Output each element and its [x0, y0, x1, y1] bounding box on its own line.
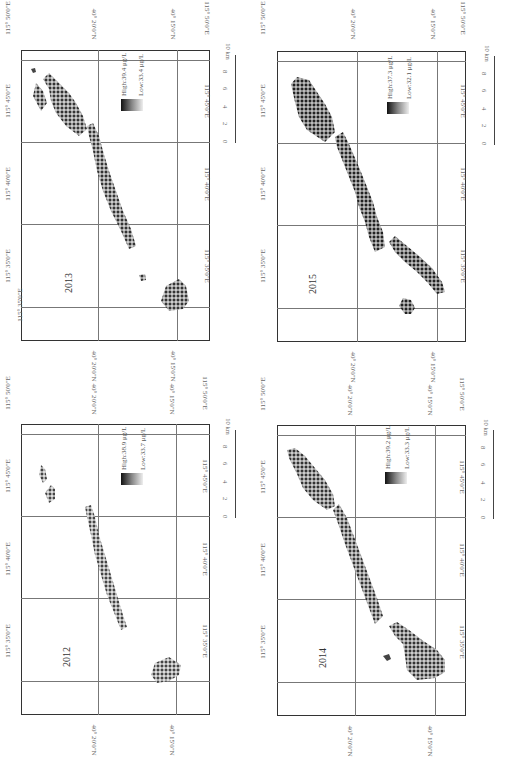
lat-label-top-15: 40° 15'0"N: [168, 383, 176, 414]
legend-low: Low:33.4 μg/L: [137, 54, 145, 96]
reservoir-concentration-map: [21, 50, 210, 341]
legend-high: High:39.4 μg/L: [120, 53, 128, 96]
lon-label-top-40: 115° 40'0"E: [4, 167, 12, 201]
lon-label-right-45: 115° 45'0"E: [459, 84, 467, 118]
lat-label-bottom-15: 40° 15'0"N: [426, 725, 434, 756]
scale-tick-8: 8: [222, 445, 229, 448]
scale-tick-6: 6: [222, 462, 229, 465]
scale-tick-0: 0: [481, 142, 488, 145]
scale-tick-10: 10 km: [225, 418, 232, 434]
lat-label-bottom-20: 40° 20'0"N: [90, 350, 98, 381]
lat-label-bottom-15: 40° 15'0"N: [168, 724, 176, 755]
lon-label-right-35: 115° 35'0"E: [458, 625, 466, 659]
legend-high: High:37.3 μg/L: [386, 56, 394, 99]
lat-label-bottom-15: 40° 15'0"N: [169, 350, 177, 381]
year-label: 2013: [63, 273, 74, 293]
lon-label-right-35: 115° 35'0"E: [203, 249, 211, 283]
lat-label-top-20: 40° 20'0"N: [90, 8, 98, 39]
legend-high: High:38.9 μg/L: [120, 427, 128, 470]
lon-label-top-45: 115° 45'0"E: [4, 459, 12, 493]
scale-tick-0: 0: [480, 516, 487, 519]
lon-label-right-50: 115° 50'0"E: [458, 377, 466, 411]
legend-high: High:39.2 μg/L: [384, 426, 392, 469]
scale-tick-4: 4: [222, 480, 229, 483]
lat-label-top-20: 40° 20'0"N: [346, 384, 354, 415]
lon-label-top-35: 115° 35'0"E: [259, 249, 267, 283]
legend-color-ramp: [121, 99, 143, 111]
lat-label-bottom-20: 40° 20'0"N: [346, 725, 354, 756]
legend-color-ramp: [387, 102, 409, 114]
lon-label-right-40: 115° 40'0"E: [459, 167, 467, 201]
lon-label-top-45: 115° 45'0"E: [259, 460, 267, 494]
scale-tick-2: 2: [222, 122, 229, 125]
lon-label-right-50: 115° 50'0"E: [203, 1, 211, 35]
lat-label-bottom-20: 40° 20'0"N: [349, 351, 357, 382]
scale-tick-10: 10 km: [484, 45, 491, 61]
scale-bar: [235, 55, 236, 143]
legend-color-ramp: [385, 472, 407, 484]
lat-label-bottom-20: 40° 20'0"N: [90, 724, 98, 755]
lat-label-top-15: 40° 15'0"N: [429, 8, 437, 39]
legend-low: Low:33.7 μg/L: [139, 428, 147, 470]
lon-label-right-40: 115° 40'0"E: [203, 167, 211, 201]
scale-tick-2: 2: [480, 498, 487, 501]
lon-label-top-50: 115° 50'0"E: [4, 1, 12, 35]
year-label: 2014: [317, 648, 328, 668]
legend-color-ramp: [121, 473, 143, 485]
scale-tick-4: 4: [480, 481, 487, 484]
lon-label-top-35: 115° 35'0"E: [4, 249, 12, 283]
lon-label-top-40: 115° 40'0"E: [259, 543, 267, 577]
lon-label-top-50: 115° 50'0"E: [259, 377, 267, 411]
scale-tick-6: 6: [480, 463, 487, 466]
lat-label-top-20: 40° 20'0"N: [90, 383, 98, 414]
scale-tick-6: 6: [222, 87, 229, 90]
reservoir-concentration-map: [277, 425, 466, 716]
scale-bar: [235, 430, 236, 518]
year-label: 2015: [307, 274, 318, 294]
scale-tick-6: 6: [481, 89, 488, 92]
lon-label-right-35: 115° 35'0"E: [459, 249, 467, 283]
scale-tick-4: 4: [222, 105, 229, 108]
reservoir-concentration-map: [277, 51, 466, 342]
scale-tick-8: 8: [222, 70, 229, 73]
scale-tick-0: 0: [222, 515, 229, 518]
lon-label-right-40: 115° 40'0"E: [201, 542, 209, 576]
lon-label-35-top: 115° 35'0"E: [16, 288, 24, 322]
lon-label-top-40: 115° 40'0"E: [259, 167, 267, 201]
scale-tick-2: 2: [481, 124, 488, 127]
lon-label-top-50: 115° 50'0"E: [4, 376, 12, 410]
lon-label-top-35: 115° 35'0"E: [4, 624, 12, 658]
lat-label-bottom-15: 40° 15'0"N: [429, 351, 437, 382]
lon-label-right-35: 115° 35'0"E: [201, 624, 209, 658]
lon-label-top-40: 115° 40'0"E: [4, 542, 12, 576]
scale-bar: [494, 56, 495, 145]
scale-tick-2: 2: [222, 497, 229, 500]
lon-label-right-45: 115° 45'0"E: [203, 84, 211, 118]
scale-tick-8: 8: [480, 446, 487, 449]
lat-label-top-15: 40° 15'0"N: [426, 384, 434, 415]
scale-tick-8: 8: [481, 72, 488, 75]
lon-label-right-45: 115° 45'0"E: [458, 460, 466, 494]
scale-tick-4: 4: [481, 107, 488, 110]
lon-label-top-35: 115° 35'0"E: [259, 625, 267, 659]
reservoir-concentration-map: [21, 424, 210, 715]
lon-label-top-45: 115° 45'0"E: [259, 84, 267, 118]
lat-label-top-20: 40° 20'0"N: [349, 8, 357, 39]
lon-label-right-50: 115° 50'0"E: [201, 376, 209, 410]
lon-label-right-40: 115° 40'0"E: [458, 543, 466, 577]
scale-tick-0: 0: [222, 140, 229, 143]
lon-label-right-45: 115° 45'0"E: [201, 459, 209, 493]
lon-label-top-50: 115° 50'0"E: [259, 1, 267, 35]
legend-low: Low:32.1 μg/L: [405, 57, 413, 99]
scale-tick-10: 10 km: [225, 43, 232, 59]
year-label: 2012: [61, 647, 72, 667]
lon-label-top-45: 115° 45'0"E: [4, 84, 12, 118]
lon-label-right-50: 115° 50'0"E: [459, 1, 467, 35]
legend-low: Low:33.3 μg/L: [403, 427, 411, 469]
scale-tick-10: 10 km: [483, 419, 490, 435]
lat-label-top-15: 40° 15'0"N: [169, 8, 177, 39]
scale-bar: [493, 430, 494, 519]
